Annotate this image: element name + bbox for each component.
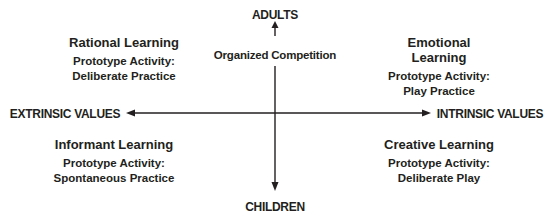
quadrant-line2: Deliberate Play — [384, 171, 494, 186]
quadrant-line1: Prototype Activity: — [384, 156, 494, 171]
quadrant-title: Creative Learning — [384, 137, 494, 152]
quadrant-title: Emotional Learning — [382, 35, 496, 65]
left-arrow-icon — [126, 110, 135, 117]
quadrant-line1: Prototype Activity: — [54, 156, 175, 171]
up-arrow-icon — [272, 21, 279, 28]
quadrant-title: Informant Learning — [54, 137, 175, 152]
quadrant-line2: Play Practice — [382, 84, 496, 99]
down-arrow-icon — [272, 182, 279, 191]
axis-label-bottom: CHILDREN — [245, 200, 305, 214]
quadrant-title: Rational Learning — [69, 35, 179, 50]
axis-label-top: ADULTS — [252, 8, 298, 22]
quadrant-line2: Spontaneous Practice — [54, 171, 175, 186]
axis-label-right: INTRINSIC VALUES — [437, 107, 543, 121]
quadrant-creative-learning: Creative Learning Prototype Activity: De… — [384, 137, 494, 186]
quadrant-rational-learning: Rational Learning Prototype Activity: De… — [69, 35, 179, 84]
quadrant-informant-learning: Informant Learning Prototype Activity: S… — [54, 137, 175, 186]
quadrant-line1: Prototype Activity: — [69, 54, 179, 69]
quadrant-line1: Prototype Activity: — [382, 69, 496, 84]
right-arrow-icon — [422, 110, 431, 117]
center-label: Organized Competition — [214, 49, 336, 61]
quadrant-emotional-learning: Emotional Learning Prototype Activity: P… — [382, 35, 496, 99]
axis-label-left: EXTRINSIC VALUES — [10, 107, 120, 121]
quadrant-line2: Deliberate Practice — [69, 69, 179, 84]
